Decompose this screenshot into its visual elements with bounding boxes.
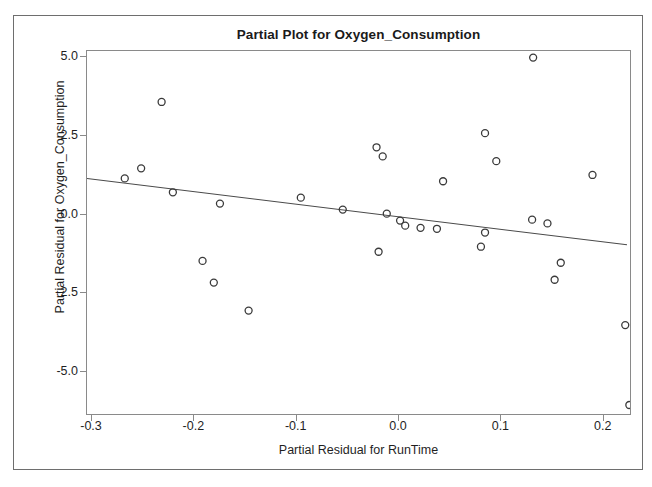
regression-line	[87, 178, 627, 244]
figure-canvas: Partial Plot for Oxygen_Consumption Part…	[0, 0, 652, 487]
page-title: Partial Plot for Oxygen_Consumption	[86, 27, 631, 42]
data-point	[477, 243, 484, 250]
data-point	[297, 194, 304, 201]
data-point	[210, 279, 217, 286]
y-axis-label: Partial Residual for Oxygen_Consumption	[53, 7, 67, 387]
data-point	[482, 229, 489, 236]
x-axis-label: Partial Residual for RunTime	[86, 443, 631, 457]
data-point	[529, 216, 536, 223]
data-point	[557, 259, 564, 266]
scatter-plot-svg	[87, 51, 631, 415]
data-point	[121, 175, 128, 182]
data-point	[216, 200, 223, 207]
data-point	[433, 225, 440, 232]
data-point	[551, 276, 558, 283]
data-point	[417, 224, 424, 231]
data-point	[245, 307, 252, 314]
data-point	[589, 171, 596, 178]
data-point	[169, 189, 176, 196]
data-point	[622, 322, 629, 329]
data-point	[402, 222, 409, 229]
data-point	[626, 401, 631, 408]
data-point	[530, 54, 537, 61]
data-point	[482, 130, 489, 137]
data-point	[158, 98, 165, 105]
data-point	[138, 165, 145, 172]
data-point	[375, 248, 382, 255]
data-point	[493, 158, 500, 165]
data-point	[379, 153, 386, 160]
data-point	[199, 257, 206, 264]
plot-area	[86, 50, 631, 415]
data-point	[373, 144, 380, 151]
data-point	[544, 220, 551, 227]
data-point	[383, 210, 390, 217]
data-point	[440, 178, 447, 185]
